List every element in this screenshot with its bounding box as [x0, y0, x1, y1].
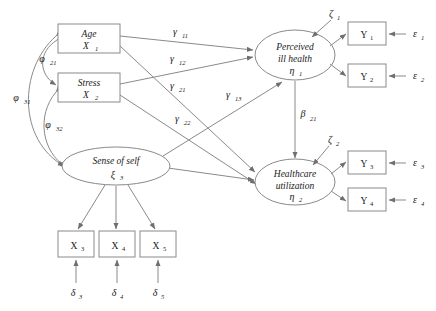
node-y1[interactable]: Y 1: [348, 22, 386, 45]
node-x5[interactable]: X 5: [140, 231, 176, 257]
label-gamma13: γ: [226, 89, 231, 100]
node-sense-of-self[interactable]: Sense of self ξ 3: [62, 147, 170, 185]
label-delta5-sub: 5: [161, 293, 165, 300]
label-epsilon1: ε: [413, 28, 417, 39]
path-sense-to-x3: [78, 185, 105, 229]
eta1-symbol: η: [290, 65, 295, 76]
path-eta1-to-y1: [330, 34, 346, 46]
eta2-line2: utilization: [276, 181, 315, 191]
path-sense-to-eta1: [163, 82, 282, 156]
label-gamma12-sub: 12: [179, 59, 186, 66]
node-y4[interactable]: Y 4: [348, 188, 386, 211]
eta2-line1: Healthcare: [273, 169, 316, 179]
label-zeta1-sub: 1: [337, 14, 340, 21]
x4-symbol: X: [112, 241, 119, 251]
path-sense-to-x5: [128, 185, 155, 229]
label-epsilon2: ε: [413, 70, 417, 81]
age-label: Age: [81, 29, 97, 39]
label-epsilon3: ε: [413, 157, 417, 168]
label-epsilon3-sub: 3: [420, 163, 425, 170]
eta1-line1: Perceived: [275, 42, 314, 52]
label-epsilon1-sub: 1: [421, 34, 424, 41]
y4-symbol: Y: [361, 196, 368, 206]
node-stress[interactable]: Stress X 2: [58, 73, 120, 102]
y3-symbol-sub: 3: [370, 163, 373, 170]
label-gamma22: γ: [175, 113, 180, 124]
path-eta1-to-y2: [330, 64, 346, 76]
x3-symbol-sub: 3: [81, 245, 84, 252]
node-perceived-ill-health[interactable]: Perceived ill health η 1: [255, 30, 335, 80]
x5-symbol-sub: 5: [163, 245, 166, 252]
label-beta21-sub: 21: [310, 115, 317, 122]
label-phi31: φ: [13, 92, 19, 103]
sense-of-self-ellipse[interactable]: [62, 147, 170, 185]
sense-of-self-symbol: ξ: [111, 169, 116, 181]
y1-symbol-sub: 1: [370, 34, 373, 41]
age-symbol-sub: 1: [95, 45, 98, 52]
y3-symbol: Y: [361, 159, 368, 169]
node-y3[interactable]: Y 3: [348, 151, 386, 174]
label-zeta2: ζ: [328, 134, 333, 146]
label-gamma21-sub: 21: [179, 86, 186, 93]
label-delta3-sub: 3: [78, 293, 83, 300]
stress-symbol: X: [82, 90, 90, 100]
label-delta5: δ: [153, 287, 158, 298]
loadings-sense-of-self: [78, 185, 155, 229]
node-x4[interactable]: X 4: [99, 231, 135, 257]
x5-symbol: X: [153, 241, 160, 251]
eta1-symbol-sub: 1: [299, 70, 302, 77]
epsilon-arrows: [389, 34, 406, 200]
label-phi21-sub: 21: [50, 59, 57, 66]
label-phi32: φ: [45, 119, 51, 130]
label-epsilon4: ε: [413, 194, 417, 205]
label-delta3: δ: [71, 287, 76, 298]
label-gamma11: γ: [173, 26, 178, 37]
age-symbol: X: [82, 41, 90, 51]
label-phi32-sub: 32: [55, 125, 63, 132]
path-eta2-to-y3: [331, 162, 346, 174]
path-eta2-to-y4: [331, 191, 346, 201]
label-epsilon2-sub: 2: [421, 76, 425, 83]
label-delta4: δ: [112, 287, 117, 298]
x3-symbol: X: [71, 241, 78, 251]
stress-label: Stress: [78, 78, 101, 88]
label-phi21: φ: [39, 53, 45, 64]
label-gamma12: γ: [170, 53, 175, 64]
label-gamma11-sub: 11: [182, 32, 188, 39]
node-healthcare-utilization[interactable]: Healthcare utilization η 2: [255, 159, 335, 205]
label-zeta2-sub: 2: [336, 140, 340, 147]
sense-of-self-label: Sense of self: [93, 156, 141, 166]
delta-arrows: [76, 260, 158, 283]
arrow-zeta1: [312, 20, 331, 37]
label-beta21: β: [300, 108, 306, 119]
label-gamma13-sub: 13: [235, 95, 242, 102]
label-phi31-sub: 31: [23, 98, 31, 105]
arrow-zeta2: [313, 146, 329, 165]
eta2-symbol: η: [290, 191, 295, 202]
y2-symbol: Y: [361, 72, 368, 82]
node-y2[interactable]: Y 2: [348, 64, 386, 87]
node-age[interactable]: Age X 1: [58, 24, 120, 53]
node-x3[interactable]: X 3: [58, 231, 94, 257]
label-epsilon4-sub: 4: [421, 200, 425, 207]
sem-path-diagram: Age X 1 Stress X 2 Sense of self ξ 3 Per…: [0, 0, 436, 311]
eta1-line2: ill health: [278, 54, 312, 64]
label-gamma21: γ: [170, 80, 175, 91]
path-stress-to-eta1: [120, 57, 253, 84]
label-delta4-sub: 4: [120, 293, 124, 300]
y1-symbol: Y: [361, 30, 368, 40]
y2-symbol-sub: 2: [370, 76, 373, 83]
label-zeta1: ζ: [329, 8, 334, 20]
label-gamma22-sub: 22: [184, 119, 191, 126]
